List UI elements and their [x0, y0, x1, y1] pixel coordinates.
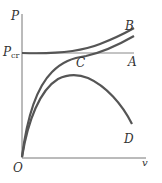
curve-b — [22, 28, 134, 53]
x-axis-label: v — [142, 157, 148, 168]
diagram-canvas: P Pcr O v A B C D — [0, 0, 162, 183]
curve-d-label: D — [123, 132, 134, 146]
curve-a-label: A — [127, 55, 137, 69]
curve-b-label: B — [124, 19, 134, 33]
origin-label: O — [13, 161, 23, 175]
curve-d — [22, 75, 132, 157]
y-axis-label: P — [10, 9, 20, 23]
critical-load-label: Pcr — [2, 45, 20, 60]
curve-c-label: C — [76, 56, 85, 70]
